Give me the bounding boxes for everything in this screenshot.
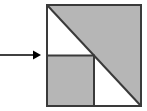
pointer-arrow-head bbox=[33, 51, 41, 60]
inner-square bbox=[47, 56, 94, 107]
geometric-figure bbox=[0, 0, 147, 111]
figure-root: Square with diagonal and inscribed quart… bbox=[0, 0, 147, 111]
